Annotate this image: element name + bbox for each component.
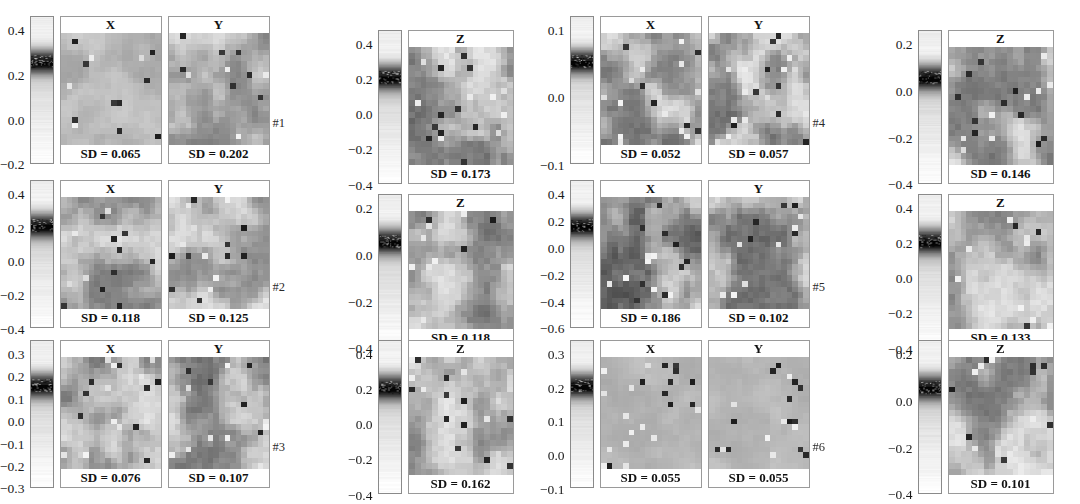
colorbar-tick-label: 0.0 [8,255,25,269]
panel-title: Y [169,17,269,33]
colorbar-tick-label: −0.4 [0,323,25,337]
panel-title: Z [409,31,513,47]
colorbar-tick-label: 0.1 [8,393,25,407]
colorbar: 0.40.20.0−0.2−0.4 [888,194,942,348]
image-panel-y[interactable]: YSD = 0.102 [708,180,810,328]
panel-sd-label: SD = 0.101 [949,475,1053,493]
panel-image [409,211,513,329]
panel-sd-label: SD = 0.055 [709,469,809,487]
specimen-group-6: 0.30.20.10.0−0.1XSD = 0.055YSD = 0.055#6 [540,340,825,488]
panel-image [409,47,513,165]
panel-sd-label: SD = 0.146 [949,165,1053,183]
colorbar-tick-label: −0.4 [540,296,565,310]
colorbar-tick-label: 0.0 [356,108,373,122]
panel-title: Z [409,195,513,211]
colorbar: 0.30.20.10.0−0.1−0.2−0.3 [0,340,54,488]
colorbar: 0.40.20.0−0.2−0.4 [0,180,54,328]
colorbar-tick-labels: 0.30.20.10.0−0.1 [540,340,570,504]
image-panel-z[interactable]: ZSD = 0.101 [948,340,1054,494]
panel-sd-label: SD = 0.186 [601,309,701,327]
colorbar-tick-label: 0.1 [548,415,565,429]
colorbar-tick-label: −0.4 [348,489,373,503]
colorbar-tick-label: −0.4 [348,179,373,193]
panel-image [61,197,161,309]
colorbar-tick-label: −0.4 [888,488,913,502]
image-panel-x[interactable]: XSD = 0.052 [600,16,702,164]
colorbar-tick-label: 0.4 [896,202,913,216]
panel-title: Z [949,195,1053,211]
colorbar-tick-label: −0.1 [540,159,565,173]
specimen-group-1: 0.40.20.0−0.2XSD = 0.065YSD = 0.202#1 [0,16,285,164]
image-panel-x[interactable]: XSD = 0.076 [60,340,162,488]
colorbar-tick-label: −0.2 [888,132,913,146]
panel-title: X [601,17,701,33]
specimen-id-label: #5 [810,280,826,295]
specimen-group-5: 0.40.20.0−0.2−0.4−0.6XSD = 0.186YSD = 0.… [540,180,825,328]
colorbar-tick-label: −0.2 [540,269,565,283]
specimen-group-1-z: 0.40.20.0−0.2−0.4ZSD = 0.173 [348,30,514,184]
panel-sd-label: SD = 0.118 [61,309,161,327]
colorbar-gradient [918,30,942,184]
colorbar: 0.40.20.0−0.2−0.4−0.6 [540,180,594,328]
panel-image [169,357,269,469]
specimen-id-label: #4 [810,116,826,131]
colorbar-gradient [30,16,54,164]
colorbar: 0.20.0−0.2−0.4 [888,30,942,184]
panel-title: Z [949,341,1053,357]
panel-sd-label: SD = 0.065 [61,145,161,163]
image-panel-x[interactable]: XSD = 0.186 [600,180,702,328]
colorbar-tick-label: 0.3 [548,348,565,362]
colorbar-tick-label: −0.2 [0,460,25,474]
colorbar-tick-label: 0.3 [8,348,25,362]
image-panel-x[interactable]: XSD = 0.055 [600,340,702,488]
colorbar-tick-label: 0.2 [356,383,373,397]
image-panel-z[interactable]: ZSD = 0.173 [408,30,514,184]
image-panel-z[interactable]: ZSD = 0.118 [408,194,514,348]
panel-sd-label: SD = 0.102 [709,309,809,327]
image-panel-z[interactable]: ZSD = 0.162 [408,340,514,494]
panel-image [409,357,513,475]
image-panel-y[interactable]: YSD = 0.202 [168,16,270,164]
colorbar-tick-label: −0.4 [888,178,913,192]
image-panel-x[interactable]: XSD = 0.065 [60,16,162,164]
image-panel-z[interactable]: ZSD = 0.133 [948,194,1054,348]
colorbar: 0.40.20.0−0.2−0.4 [348,30,402,184]
panel-sd-label: SD = 0.162 [409,475,513,493]
colorbar-tick-label: 0.2 [8,370,25,384]
colorbar: 0.40.20.0−0.2−0.4 [348,340,402,494]
image-panel-y[interactable]: YSD = 0.107 [168,340,270,488]
specimen-id-label: #1 [270,116,286,131]
colorbar-gradient [30,180,54,328]
colorbar-gradient [918,194,942,348]
colorbar-tick-label: 0.0 [548,242,565,256]
colorbar-tick-label: −0.2 [888,442,913,456]
panel-image [601,197,701,309]
colorbar-gradient [570,340,594,488]
panel-sd-label: SD = 0.173 [409,165,513,183]
panel-image [169,197,269,309]
colorbar-tick-label: 0.2 [548,382,565,396]
image-panel-y[interactable]: YSD = 0.125 [168,180,270,328]
colorbar-gradient [570,16,594,164]
image-panel-y[interactable]: YSD = 0.057 [708,16,810,164]
panel-image [949,211,1053,329]
image-panel-x[interactable]: XSD = 0.118 [60,180,162,328]
colorbar-tick-label: −0.2 [348,453,373,467]
colorbar-tick-label: 0.2 [8,222,25,236]
panel-title: Y [709,341,809,357]
colorbar-tick-label: 0.2 [356,202,373,216]
colorbar-tick-label: 0.2 [896,348,913,362]
image-panel-y[interactable]: YSD = 0.055 [708,340,810,488]
panel-sd-label: SD = 0.202 [169,145,269,163]
panel-title: Y [709,181,809,197]
colorbar-tick-label: 0.0 [8,114,25,128]
colorbar: 0.20.0−0.2−0.4 [888,340,942,494]
colorbar-tick-labels: 0.30.20.10.0−0.1−0.2−0.3 [0,340,30,504]
image-panel-z[interactable]: ZSD = 0.146 [948,30,1054,184]
specimen-group-3: 0.30.20.10.0−0.1−0.2−0.3XSD = 0.076YSD =… [0,340,285,488]
colorbar-tick-labels: 0.20.0−0.2−0.4 [348,194,378,364]
colorbar-tick-labels: 0.10.0−0.1 [540,16,570,180]
specimen-id-label: #2 [270,280,286,295]
colorbar-gradient [30,340,54,488]
